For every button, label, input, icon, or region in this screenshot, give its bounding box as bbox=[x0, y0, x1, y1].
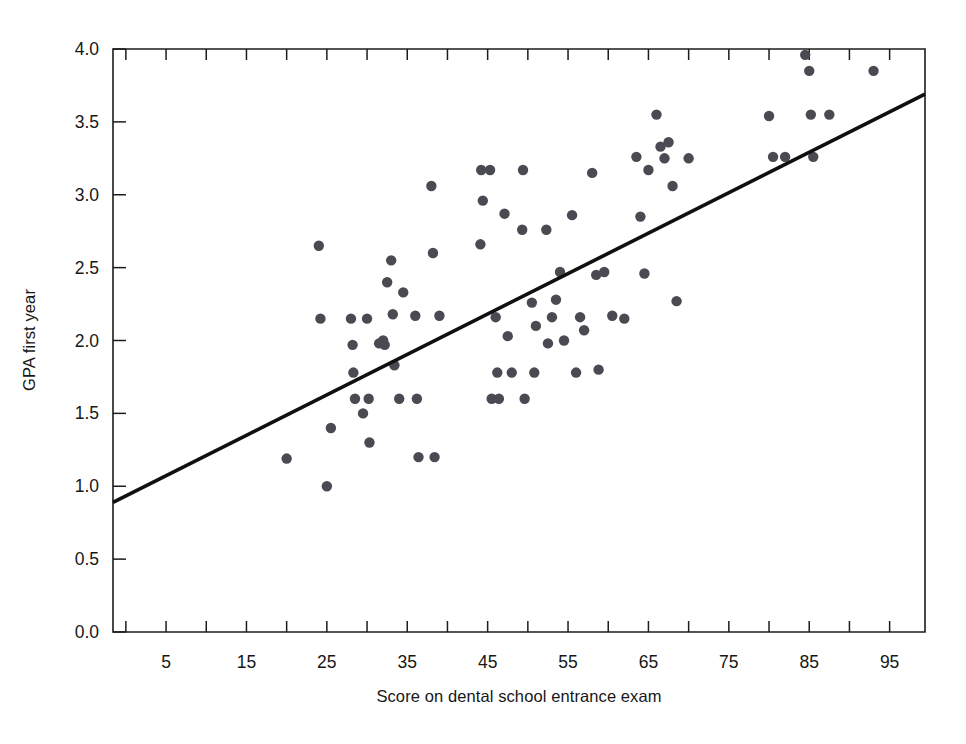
scatter-point bbox=[517, 225, 527, 235]
scatter-point bbox=[380, 340, 390, 350]
scatter-point bbox=[475, 239, 485, 249]
scatter-point bbox=[607, 311, 617, 321]
scatter-point bbox=[579, 325, 589, 335]
scatter-point bbox=[507, 367, 517, 377]
x-tick-label: 55 bbox=[558, 652, 577, 672]
y-tick-label: 0.0 bbox=[75, 622, 100, 642]
scatter-point bbox=[410, 311, 420, 321]
scatter-point bbox=[503, 331, 513, 341]
scatter-point bbox=[571, 367, 581, 377]
scatter-point bbox=[599, 267, 609, 277]
scatter-point bbox=[593, 364, 603, 374]
scatter-point bbox=[388, 309, 398, 319]
scatter-point bbox=[639, 268, 649, 278]
scatter-point bbox=[800, 50, 810, 60]
scatter-point bbox=[551, 294, 561, 304]
x-tick-label: 75 bbox=[719, 652, 738, 672]
y-axis-tick-labels: 0.00.51.01.52.02.53.03.54.0 bbox=[75, 39, 100, 642]
y-tick-label: 1.0 bbox=[75, 476, 100, 496]
scatter-point bbox=[529, 367, 539, 377]
scatter-point bbox=[326, 423, 336, 433]
scatter-point bbox=[663, 137, 673, 147]
scatter-point bbox=[635, 211, 645, 221]
scatter-point bbox=[281, 453, 291, 463]
scatter-point bbox=[764, 111, 774, 121]
scatter-point bbox=[346, 313, 356, 323]
y-tick-label: 4.0 bbox=[75, 39, 100, 59]
y-tick-label: 1.5 bbox=[75, 403, 99, 423]
scatter-point bbox=[527, 297, 537, 307]
scatter-point bbox=[559, 335, 569, 345]
scatter-point bbox=[643, 165, 653, 175]
scatter-point bbox=[575, 312, 585, 322]
scatter-point bbox=[547, 312, 557, 322]
scatter-point bbox=[347, 340, 357, 350]
scatter-plot-figure: 5152535455565758595 0.00.51.01.52.02.53.… bbox=[0, 0, 966, 744]
scatter-point bbox=[806, 109, 816, 119]
x-tick-label: 65 bbox=[639, 652, 658, 672]
scatter-point bbox=[386, 255, 396, 265]
x-tick-label: 35 bbox=[398, 652, 417, 672]
scatter-point bbox=[315, 313, 325, 323]
scatter-point bbox=[824, 109, 834, 119]
x-axis-label: Score on dental school entrance exam bbox=[376, 687, 661, 705]
y-tick-label: 0.5 bbox=[75, 549, 99, 569]
scatter-point bbox=[358, 408, 368, 418]
scatter-point bbox=[494, 394, 504, 404]
x-tick-label: 15 bbox=[237, 652, 256, 672]
scatter-point bbox=[394, 394, 404, 404]
scatter-point bbox=[362, 313, 372, 323]
x-tick-label: 45 bbox=[478, 652, 497, 672]
scatter-point bbox=[619, 313, 629, 323]
y-axis-label: GPA first year bbox=[20, 289, 38, 391]
scatter-point bbox=[428, 248, 438, 258]
scatter-point bbox=[382, 277, 392, 287]
scatter-point bbox=[322, 481, 332, 491]
scatter-point bbox=[667, 181, 677, 191]
scatter-point bbox=[434, 311, 444, 321]
scatter-point bbox=[363, 394, 373, 404]
scatter-point bbox=[485, 165, 495, 175]
scatter-point bbox=[567, 210, 577, 220]
scatter-point bbox=[659, 153, 669, 163]
scatter-point bbox=[413, 452, 423, 462]
scatter-point bbox=[768, 152, 778, 162]
scatter-point bbox=[314, 241, 324, 251]
scatter-point bbox=[499, 208, 509, 218]
scatter-point bbox=[350, 394, 360, 404]
scatter-point bbox=[518, 165, 528, 175]
y-tick-label: 2.0 bbox=[75, 331, 100, 351]
scatter-point bbox=[429, 452, 439, 462]
x-tick-label: 85 bbox=[799, 652, 818, 672]
scatter-point bbox=[651, 109, 661, 119]
scatter-point bbox=[543, 338, 553, 348]
x-tick-label: 95 bbox=[880, 652, 899, 672]
scatter-point bbox=[348, 367, 358, 377]
scatter-point bbox=[412, 394, 422, 404]
scatter-point bbox=[683, 153, 693, 163]
scatter-point bbox=[476, 165, 486, 175]
scatter-point bbox=[398, 287, 408, 297]
scatter-point bbox=[519, 394, 529, 404]
chart-canvas: 5152535455565758595 0.00.51.01.52.02.53.… bbox=[0, 0, 966, 744]
scatter-point bbox=[671, 296, 681, 306]
scatter-point bbox=[587, 168, 597, 178]
scatter-point bbox=[426, 181, 436, 191]
scatter-point bbox=[364, 437, 374, 447]
y-tick-label: 3.5 bbox=[75, 112, 99, 132]
y-tick-label: 2.5 bbox=[75, 258, 99, 278]
scatter-point bbox=[492, 367, 502, 377]
x-tick-label: 5 bbox=[161, 652, 171, 672]
x-tick-label: 25 bbox=[317, 652, 336, 672]
scatter-point bbox=[804, 66, 814, 76]
scatter-point bbox=[868, 66, 878, 76]
scatter-point bbox=[780, 152, 790, 162]
scatter-point bbox=[631, 152, 641, 162]
y-tick-label: 3.0 bbox=[75, 185, 100, 205]
scatter-point bbox=[478, 195, 488, 205]
scatter-point bbox=[531, 321, 541, 331]
scatter-point bbox=[541, 225, 551, 235]
